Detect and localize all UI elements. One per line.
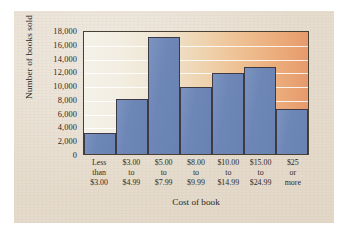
- bar: [244, 67, 276, 154]
- figure: Number of books sold 18,00016,00014,0001…: [0, 0, 348, 234]
- x-axis-tick-label-line: than: [83, 168, 115, 178]
- x-axis-tick-label-line: $7.99: [148, 178, 180, 188]
- plot-area: [83, 31, 309, 155]
- x-axis-tick-label-line: $15.00: [244, 158, 276, 168]
- x-axis-tick-label-line: to: [115, 168, 147, 178]
- x-axis-tick-label-line: to: [212, 168, 244, 178]
- x-axis-tick-labels: Lessthan$3.00$3.00to$4.99$5.00to$7.99$8.…: [83, 158, 309, 189]
- x-axis-tick-label-line: $9.99: [180, 178, 212, 188]
- y-axis-tick-label: 2,000: [58, 137, 77, 146]
- y-axis-title: Number of books sold: [24, 0, 34, 117]
- x-axis-tick-label: Lessthan$3.00: [83, 158, 115, 189]
- y-axis-tick-label: 8,000: [58, 95, 77, 104]
- x-axis-tick-label-line: to: [148, 168, 180, 178]
- x-axis-tick-label: $10.00to$14.99: [212, 158, 244, 189]
- bar-series: [84, 32, 308, 154]
- x-axis-tick-label-line: to: [180, 168, 212, 178]
- x-axis-tick-label-line: $10.00: [212, 158, 244, 168]
- y-axis-tick-label: 14,000: [53, 54, 77, 63]
- bar: [212, 73, 244, 154]
- y-axis-tick-label: 16,000: [53, 40, 77, 49]
- x-axis-tick-label-line: more: [277, 178, 309, 188]
- y-axis-tick-label: 18,000: [53, 27, 77, 36]
- y-axis-tick-label: 12,000: [53, 68, 77, 77]
- x-axis-tick-label: $8.00to$9.99: [180, 158, 212, 189]
- bar: [276, 109, 308, 154]
- y-axis-tick-label: 10,000: [53, 82, 77, 91]
- x-axis-tick-label-line: $14.99: [212, 178, 244, 188]
- x-axis-tick-label: $25ormore: [277, 158, 309, 189]
- bar: [180, 87, 212, 155]
- x-axis-tick-label: $15.00to$24.99: [244, 158, 276, 189]
- x-axis-tick-label-line: $4.99: [115, 178, 147, 188]
- x-axis-tick-label-line: $5.00: [148, 158, 180, 168]
- x-axis-tick-label-line: $3.00: [115, 158, 147, 168]
- x-axis-tick-label-line: or: [277, 168, 309, 178]
- x-axis-tick-label-line: $24.99: [244, 178, 276, 188]
- bar: [148, 37, 180, 154]
- y-axis-tick-label: 6,000: [58, 109, 77, 118]
- x-axis-tick-label-line: $25: [277, 158, 309, 168]
- bar: [116, 99, 148, 154]
- x-axis-tick-label-line: $8.00: [180, 158, 212, 168]
- y-axis-tick-label: 4,000: [58, 123, 77, 132]
- x-axis-tick-label: $5.00to$7.99: [148, 158, 180, 189]
- x-axis-title: Cost of book: [83, 197, 309, 207]
- x-axis-tick-label-line: Less: [83, 158, 115, 168]
- y-axis-tick-labels: 18,00016,00014,00012,00010,0008,0006,000…: [38, 31, 80, 155]
- x-axis-tick-label: $3.00to$4.99: [115, 158, 147, 189]
- x-axis-tick-label-line: $3.00: [83, 178, 115, 188]
- y-axis-tick-label: 0: [73, 151, 77, 160]
- bar: [84, 133, 116, 154]
- x-axis-tick-label-line: to: [244, 168, 276, 178]
